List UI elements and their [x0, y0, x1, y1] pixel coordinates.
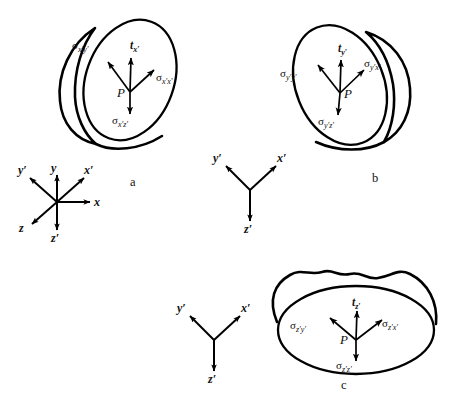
axis-arrow-y-prime-c: [190, 316, 214, 340]
panel-a-arrows: [108, 58, 154, 114]
label-sigma-zpzp: σz′z′: [336, 360, 352, 374]
label-sigma-ypxp: σy′x′: [364, 58, 381, 72]
sigma-ypxp-sub: y′x′: [370, 63, 381, 72]
axis-label-y-a: y: [51, 162, 56, 174]
arrow-traction-xp: [130, 58, 131, 92]
arrow-traction-yp: [340, 60, 341, 93]
arrow-sigma-zpxp: [356, 320, 382, 340]
traction-zp-sub: z′: [355, 302, 360, 311]
stress-traction-figure: [0, 0, 464, 410]
axis-arrow-y-prime-b: [226, 166, 250, 190]
sigma-ypyp-sub: y′y′: [286, 73, 297, 82]
label-sigma-zpxp: σz′x′: [382, 318, 398, 332]
sigma-zpyp-sub: z′y′: [296, 325, 306, 334]
traction-xp-sub: x′: [133, 45, 139, 54]
panel-letter-a: a: [130, 176, 136, 189]
label-traction-xp: tx′: [130, 40, 139, 54]
axis-label-x-a: x: [94, 196, 100, 208]
axis-label-z-a: z: [19, 222, 24, 234]
axis-arrow-x-prime-b: [250, 166, 276, 190]
sigma-xpyp-sub: x′y′: [78, 45, 89, 54]
panel-c-arrows: [330, 311, 382, 361]
axis-arrow-x-prime: [57, 178, 84, 202]
axis-arrow-x-prime-c: [214, 316, 240, 340]
arrow-sigma-ypzp: [338, 93, 340, 115]
axis-label-y-prime-c: y′: [177, 302, 186, 314]
label-sigma-zpyp: σz′y′: [290, 320, 306, 334]
axis-label-y-prime-b: y′: [213, 152, 222, 164]
panel-b: [276, 11, 410, 159]
label-sigma-xpzp: σx′z′: [112, 115, 128, 129]
traction-yp-sub: y′: [341, 48, 347, 57]
axis-label-z-prime-c: z′: [208, 373, 216, 385]
panel-b-arrows: [318, 60, 364, 115]
axis-arrow-z: [32, 202, 57, 224]
sigma-xpxp-sub: x′x′: [162, 77, 173, 86]
arrow-traction-zp: [356, 311, 357, 340]
triad-b: [226, 166, 276, 221]
sigma-xpzp-sub: x′z′: [118, 120, 128, 129]
axis-label-x-prime-c: x′: [241, 302, 250, 314]
axis-label-x-prime-b: x′: [277, 152, 286, 164]
axis-label-x-prime-a: x′: [84, 164, 93, 176]
axis-label-z-prime-a: z′: [51, 232, 59, 244]
triad-a: [30, 175, 90, 230]
triad-c: [190, 316, 240, 371]
label-sigma-ypzp: σy′z′: [318, 116, 334, 130]
axis-label-y-prime-a: y′: [18, 164, 27, 176]
axis-arrow-y-prime: [30, 178, 57, 202]
label-point-p-b: P: [344, 87, 352, 100]
label-traction-zp: tz′: [352, 297, 361, 311]
label-sigma-ypyp: σy′y′: [280, 68, 297, 82]
sigma-ypzp-sub: y′z′: [324, 121, 334, 130]
label-sigma-xpyp: σx′y′: [72, 40, 89, 54]
label-traction-yp: ty′: [338, 43, 347, 57]
panel-letter-c: c: [341, 379, 347, 392]
label-sigma-xpxp: σx′x′: [156, 72, 173, 86]
sigma-zpzp-sub: z′z′: [342, 365, 352, 374]
label-point-p-c: P: [340, 333, 348, 346]
panel-b-body-outline: [366, 32, 410, 142]
arrow-sigma-ypyp: [318, 65, 340, 93]
sigma-zpxp-sub: z′x′: [388, 323, 398, 332]
panel-letter-b: b: [372, 172, 378, 185]
arrow-sigma-xpxp: [130, 70, 154, 92]
axis-label-z-prime-b: z′: [244, 223, 252, 235]
label-point-p-a: P: [117, 86, 125, 99]
